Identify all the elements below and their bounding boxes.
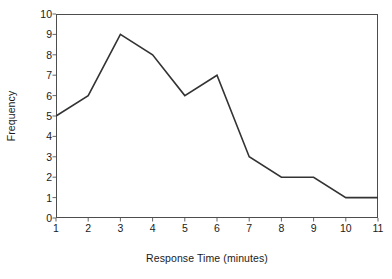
x-tick-label: 11 xyxy=(373,223,384,234)
x-tick-label: 3 xyxy=(117,223,123,234)
plot-area xyxy=(56,14,378,218)
y-axis-title-text: Frequency xyxy=(5,91,17,142)
data-line-svg xyxy=(56,14,378,218)
x-axis-title: Response Time (minutes) xyxy=(22,252,392,264)
y-tick-label: 3 xyxy=(46,152,52,163)
x-tick-label: 7 xyxy=(246,223,252,234)
y-tick-label: 8 xyxy=(46,50,52,61)
y-tick-label: 1 xyxy=(46,192,52,203)
x-tick-label: 8 xyxy=(278,223,284,234)
y-tick-label: 5 xyxy=(46,111,52,122)
x-axis-tick-labels: 1234567891011 xyxy=(0,223,392,239)
x-tick-label: 1 xyxy=(53,223,59,234)
y-tick-label: 7 xyxy=(46,70,52,81)
frequency-polyline xyxy=(56,34,378,197)
y-tick-label: 10 xyxy=(40,9,52,20)
y-axis-title: Frequency xyxy=(0,0,22,232)
y-tick-label: 2 xyxy=(46,172,52,183)
y-axis-tick-labels: 012345678910 xyxy=(22,14,52,218)
x-tick-label: 4 xyxy=(150,223,156,234)
x-tick-label: 6 xyxy=(214,223,220,234)
frequency-polygon-chart: Frequency 012345678910 1234567891011 Res… xyxy=(0,0,392,279)
y-tick-label: 4 xyxy=(46,131,52,142)
y-tick-label: 9 xyxy=(46,29,52,40)
y-tick-label: 6 xyxy=(46,90,52,101)
y-tick-label: 0 xyxy=(46,213,52,224)
x-tick-label: 2 xyxy=(85,223,91,234)
x-tick-label: 9 xyxy=(311,223,317,234)
x-tick-label: 5 xyxy=(182,223,188,234)
x-tick-label: 10 xyxy=(340,223,352,234)
